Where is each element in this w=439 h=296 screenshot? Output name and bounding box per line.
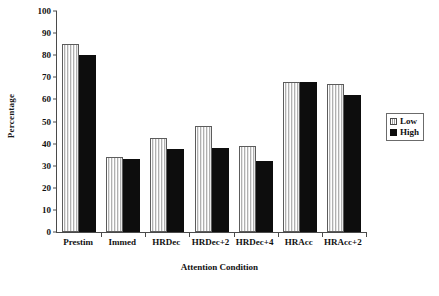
bar-group (283, 11, 317, 232)
bars-layer (57, 11, 366, 232)
x-tick-label: HRDec (152, 238, 180, 247)
bar-group (150, 11, 184, 232)
x-tick-label: Immed (108, 238, 136, 247)
bar-group (62, 11, 96, 232)
bar-low-hrdec+2 (195, 126, 212, 232)
legend-swatch-low-icon (390, 118, 397, 125)
y-axis-title-text: Percentage (6, 94, 16, 138)
x-tick-label: HRDec+4 (236, 238, 274, 247)
legend: Low High (386, 113, 424, 141)
bar-low-hrdec (150, 138, 167, 232)
bar-low-hrdec+4 (239, 146, 256, 232)
legend-label-low: Low (400, 117, 417, 126)
x-axis-tick-labels: PrestimImmedHRDecHRDec+2HRDec+4HRAccHRAc… (56, 238, 365, 254)
bar-high-hrdec+2 (212, 148, 229, 232)
bar-low-hracc+2 (327, 84, 344, 232)
x-tick-mark (322, 232, 323, 237)
x-tick-mark (278, 232, 279, 237)
bar-chart: Percentage 0102030405060708090100 Presti… (0, 0, 439, 296)
bar-high-hracc (300, 82, 317, 232)
x-tick-mark (189, 232, 190, 237)
legend-item-low: Low (390, 116, 419, 127)
bar-high-immed (123, 159, 140, 232)
bar-group (106, 11, 140, 232)
legend-swatch-high-icon (390, 129, 397, 136)
x-tick-mark (145, 232, 146, 237)
x-tick-mark (366, 232, 367, 237)
bar-low-prestim (62, 44, 79, 232)
bar-group (239, 11, 273, 232)
x-tick-mark (101, 232, 102, 237)
plot-area: 0102030405060708090100 (56, 11, 366, 233)
bar-high-hracc+2 (344, 95, 361, 232)
legend-item-high: High (390, 127, 419, 138)
x-tick-label: Prestim (63, 238, 93, 247)
bar-group (327, 11, 361, 232)
x-tick-label: HRDec+2 (192, 238, 230, 247)
y-axis-title: Percentage (2, 0, 20, 232)
bar-high-hrdec (167, 149, 184, 232)
bar-high-hrdec+4 (256, 161, 273, 232)
x-tick-label: HRAcc+2 (324, 238, 362, 247)
bar-low-hracc (283, 82, 300, 232)
bar-group (195, 11, 229, 232)
bar-high-prestim (79, 55, 96, 232)
x-tick-label: HRAcc (285, 238, 313, 247)
legend-label-high: High (400, 128, 419, 137)
bar-low-immed (106, 157, 123, 232)
x-axis-title: Attention Condition (0, 262, 439, 272)
